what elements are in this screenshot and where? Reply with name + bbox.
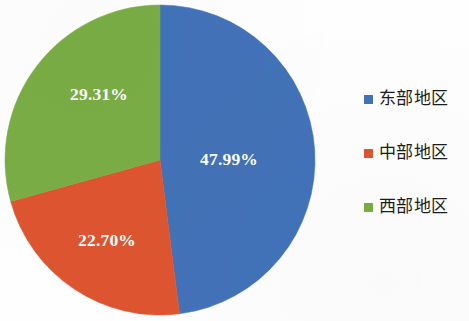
pie-data-label: 22.70% — [78, 230, 136, 250]
pie-chart-figure: 47.99%22.70%29.31% 东部地区 中部地区 西部地区 — [0, 0, 469, 321]
pie-chart-svg: 47.99%22.70%29.31% — [0, 0, 330, 321]
legend-label-zhongbu: 中部地区 — [379, 143, 449, 163]
pie-slice-group — [5, 5, 315, 315]
legend-label-dongbu: 东部地区 — [379, 89, 449, 109]
legend-item-dongbu[interactable]: 东部地区 — [364, 88, 469, 110]
legend-swatch-icon-dongbu — [364, 95, 373, 104]
chart-legend: 东部地区 中部地区 西部地区 — [364, 88, 469, 218]
legend-item-xibu[interactable]: 西部地区 — [364, 196, 469, 218]
legend-swatch-icon-zhongbu — [364, 149, 373, 158]
legend-swatch-icon-xibu — [364, 203, 373, 212]
pie-data-label: 47.99% — [200, 149, 258, 169]
legend-item-zhongbu[interactable]: 中部地区 — [364, 142, 469, 164]
legend-label-xibu: 西部地区 — [379, 197, 449, 217]
pie-data-label: 29.31% — [70, 84, 128, 104]
pie-chart-plot-area: 47.99%22.70%29.31% — [0, 0, 330, 321]
